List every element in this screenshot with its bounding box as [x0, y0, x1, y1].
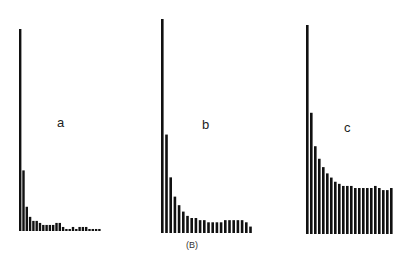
bar [330, 178, 333, 234]
bar [370, 188, 373, 234]
bar [322, 167, 325, 234]
panel-c: c [0, 0, 406, 263]
bar [346, 186, 349, 234]
bar [362, 188, 365, 234]
bar [374, 186, 377, 234]
bar [358, 188, 361, 234]
bar [350, 186, 353, 234]
bar [386, 190, 389, 234]
panel-c-label: c [344, 120, 351, 135]
bar [326, 173, 329, 234]
bar [390, 188, 393, 234]
bar [366, 188, 369, 234]
bar [354, 188, 357, 234]
bar [338, 184, 341, 234]
bar [310, 113, 313, 234]
bar [342, 186, 345, 234]
bar [334, 182, 337, 234]
bar [382, 190, 385, 234]
bar [314, 146, 317, 234]
bar [306, 25, 309, 234]
figure-label: (B) [186, 240, 198, 250]
bar [318, 159, 321, 234]
bar [378, 188, 381, 234]
